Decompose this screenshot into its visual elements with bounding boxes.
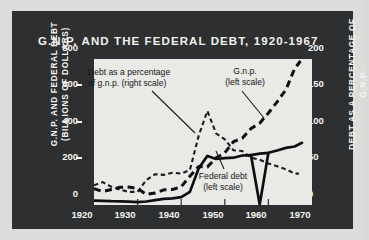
annotation-debt-percentage-line1: Debt as a percentage: [88, 67, 170, 77]
chart-title: G.N.P. AND THE FEDERAL DEBT, 1920-1967: [38, 35, 319, 47]
right-axis-label: DEBT AS A PERCENTAGE OF G.N.P.: [347, 14, 369, 154]
series-federal-debt-tail: [251, 143, 302, 155]
left-tickmark-200: [76, 157, 82, 159]
left-tick-400: 400: [44, 115, 78, 126]
left-tick-800: 800: [44, 42, 78, 53]
left-tick-600: 600: [44, 78, 78, 89]
x-tick-1940: 1940: [148, 209, 190, 220]
right-tick-150: 150: [308, 78, 342, 89]
annotation-debt-percentage-line2: of g.n.p. (right scale): [88, 78, 166, 88]
x-tick-1920: 1920: [61, 209, 103, 220]
right-tick-100: 100: [308, 115, 342, 126]
right-tick-50: 50: [308, 151, 342, 162]
annotation-federal-debt: Federal debt (left scale): [188, 171, 258, 192]
annotation-gnp-line1: G.n.p.: [233, 66, 256, 76]
right-tick-200: 200: [308, 42, 342, 53]
annotation-federal-debt-line2: (left scale): [203, 182, 243, 192]
x-tick-1950: 1950: [192, 209, 234, 220]
annotation-gnp: G.n.p. (left scale): [214, 66, 276, 87]
x-tick-1970: 1970: [279, 209, 321, 220]
annotation-federal-debt-line1: Federal debt: [199, 171, 247, 181]
plot-area: Debt as a percentage of g.n.p. (right sc…: [94, 59, 312, 205]
left-tickmark-600: [76, 84, 82, 86]
annotation-debt-percentage: Debt as a percentage of g.n.p. (right sc…: [88, 67, 170, 88]
right-tick-0: 0: [308, 188, 342, 199]
left-tick-200: 200: [44, 151, 78, 162]
x-tick-1930: 1930: [104, 209, 146, 220]
chart-panel: G.N.P. AND THE FEDERAL DEBT, 1920-1967 G…: [12, 11, 353, 229]
annotation-gnp-line2: (left scale): [225, 77, 265, 87]
x-tick-1960: 1960: [235, 209, 277, 220]
left-tick-0: 0: [44, 188, 78, 199]
left-tickmark-400: [76, 121, 82, 123]
